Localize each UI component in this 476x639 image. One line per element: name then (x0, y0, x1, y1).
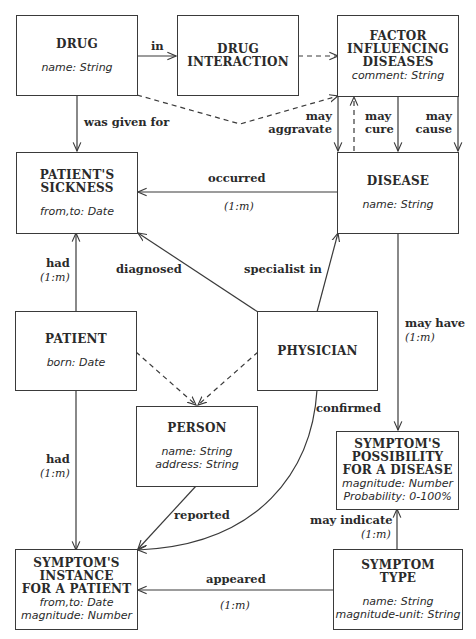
entity-title: SYMPTOM TYPE (361, 559, 435, 585)
relation-confirmed: confirmed (316, 402, 381, 415)
entity-attributes: name: String address: String (155, 445, 239, 471)
entity-patients-sickness[interactable]: PATIENT'S SICKNESS from,to: Date (16, 152, 138, 234)
entity-title: PATIENT (45, 333, 107, 346)
entity-disease[interactable]: DISEASE name: String (337, 152, 459, 234)
entity-title: PERSON (167, 422, 226, 435)
relation-occurred: occurred (208, 172, 266, 185)
cardinality-had-sickness: (1:m) (40, 271, 70, 284)
cardinality-appeared: (1:m) (220, 599, 250, 612)
cardinality-may-indicate: (1:m) (361, 528, 391, 541)
entity-title: PHYSICIAN (277, 345, 357, 358)
entity-symptoms-possibility[interactable]: SYMPTOM'S POSSIBILITY FOR A DISEASE magn… (336, 431, 459, 510)
relation-diagnosed: diagnosed (116, 263, 182, 276)
entity-title: FACTOR INFLUENCING DISEASES (347, 30, 449, 69)
relation-specialist-in: specialist in (244, 263, 322, 276)
relation-had-sickness: had (46, 257, 70, 270)
entity-person[interactable]: PERSON name: String address: String (136, 406, 258, 487)
entity-drug-interaction[interactable]: DRUG INTERACTION (177, 15, 299, 96)
entity-patient[interactable]: PATIENT born: Date (15, 311, 137, 391)
relation-was-given-for: was given for (84, 116, 169, 129)
entity-title: SYMPTOM'S POSSIBILITY FOR A DISEASE (342, 438, 452, 477)
entity-drug[interactable]: DRUG name: String (16, 15, 138, 96)
relation-may-have: may have (405, 317, 465, 330)
relation-may-indicate: may indicate (310, 514, 393, 527)
entity-attributes: born: Date (47, 356, 106, 369)
entity-title: DRUG INTERACTION (187, 43, 289, 69)
entity-factor-influencing-diseases[interactable]: FACTOR INFLUENCING DISEASES comment: Str… (337, 15, 459, 97)
relation-appeared: appeared (206, 573, 266, 586)
relation-may-aggravate: may aggravate (266, 110, 332, 136)
entity-attributes: comment: String (352, 69, 444, 82)
entity-attributes: from,to: Date magnitude: Number (21, 596, 132, 622)
cardinality-occurred: (1:m) (224, 200, 254, 213)
cardinality-had-symptom: (1:m) (40, 467, 70, 480)
entity-symptom-type[interactable]: SYMPTOM TYPE name: String magnitude-unit… (333, 549, 463, 630)
relation-in: in (151, 40, 164, 53)
entity-title: DISEASE (367, 175, 429, 188)
entity-attributes: name: String magnitude-unit: String (336, 595, 461, 621)
entity-attributes: name: String (362, 198, 433, 211)
cardinality-may-have: (1:m) (405, 331, 435, 344)
entity-symptoms-instance[interactable]: SYMPTOM'S INSTANCE FOR A PATIENT from,to… (15, 549, 138, 630)
relation-reported: reported (174, 509, 230, 522)
relation-may-cure: may cure (365, 110, 394, 136)
entity-title: DRUG (56, 38, 98, 51)
entity-physician[interactable]: PHYSICIAN (257, 311, 378, 391)
entity-attributes: name: String (41, 61, 112, 74)
entity-title: SYMPTOM'S INSTANCE FOR A PATIENT (22, 557, 132, 596)
relation-had-symptom: had (46, 453, 70, 466)
entity-title: PATIENT'S SICKNESS (40, 169, 115, 195)
entity-attributes: magnitude: Number Probability: 0-100% (342, 477, 453, 503)
relation-may-cause: may cause (410, 110, 452, 136)
entity-attributes: from,to: Date (40, 205, 114, 218)
